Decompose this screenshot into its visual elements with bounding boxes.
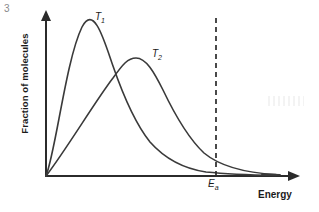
curve-t2: [46, 58, 276, 176]
x-axis: [45, 171, 300, 181]
chart-figure: 3 Fraction of molecules Energy T1 T2 Ea: [0, 0, 319, 212]
y-axis: [41, 10, 51, 176]
plot-area: [0, 0, 319, 212]
curve-t1: [46, 20, 276, 176]
